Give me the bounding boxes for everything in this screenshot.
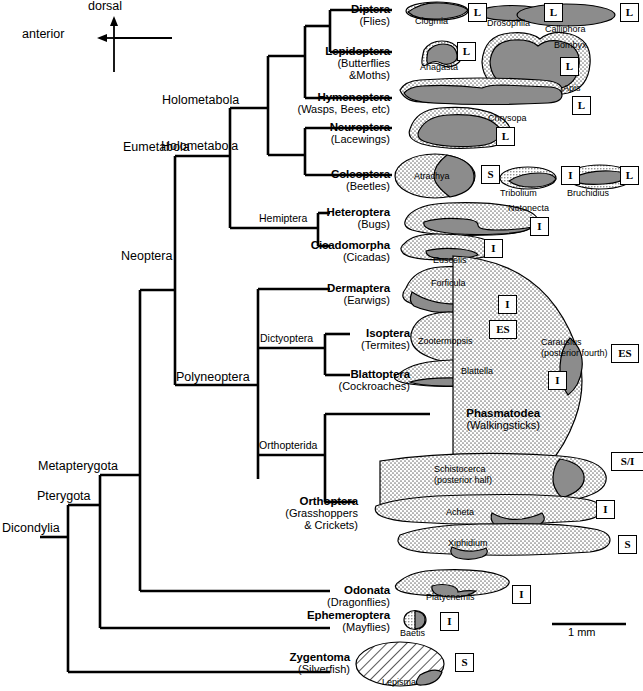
- code-box-xiphidium: S: [618, 535, 637, 554]
- genus-label-forficula: Forficula: [431, 279, 466, 288]
- genus-label-drosophila: Drosophila: [487, 19, 530, 28]
- genus-label-xiphidium: Xiphidium: [448, 539, 488, 548]
- clade-label-eumetabola: Eumetabola: [123, 141, 190, 154]
- order-common-heteroptera: (Bugs): [238, 219, 390, 231]
- genus-label-bombyx: Bombyx: [554, 41, 587, 50]
- code-box-acheta: I: [596, 500, 615, 519]
- order-common-zygentoma: (Silverfish): [228, 664, 350, 676]
- code-box-tribolium: I: [561, 166, 580, 185]
- clade-label-orthopterida: Orthopterida: [259, 440, 317, 451]
- genus-label-schistocerca-2: (posterior half): [434, 476, 492, 485]
- specimen-xiphidium: [398, 524, 610, 560]
- genus-label-carausius-2: (posterior fourth): [541, 349, 608, 358]
- order-common-lepidoptera: (Butterflies: [238, 58, 390, 70]
- genus-label-bruchidius: Bruchidius: [567, 189, 609, 198]
- genus-label-platycnemis: Platycnemis: [426, 593, 475, 602]
- order-label-orthoptera: Orthoptera: [228, 495, 358, 507]
- specimen-tribolium: [500, 167, 556, 189]
- anterior-label: anterior: [22, 28, 64, 41]
- order-label-ephemeroptera: Ephemeroptera: [198, 609, 390, 621]
- order-common-hymenoptera: (Wasps, Bees, etc): [228, 104, 390, 116]
- order-common-isoptera: (Termites): [250, 340, 410, 352]
- genus-label-apis: Apis: [563, 84, 581, 93]
- code-box-blattella: I: [548, 371, 567, 390]
- genus-label-blattella: Blattella: [461, 367, 493, 376]
- phylogeny-figure: dorsal anterior Holometabola Holometabol…: [0, 0, 643, 691]
- order-label-cicadomorpha: Cicadomorpha: [228, 239, 390, 251]
- genus-label-anagasta: Anagasta: [420, 63, 458, 72]
- clade-label-pterygota: Pterygota: [37, 490, 91, 503]
- order-common-orthoptera: (Grasshoppers: [218, 508, 358, 520]
- order-common-orthoptera-2: & Crickets): [218, 520, 358, 532]
- code-box-anagasta: L: [457, 42, 476, 61]
- specimen-calliphora: [517, 4, 615, 26]
- code-box-carausius: ES: [611, 344, 639, 363]
- genus-label-tribolium: Tribolium: [500, 189, 537, 198]
- order-common-coleoptera: (Beetles): [248, 181, 390, 193]
- code-box-bruchidius: L: [620, 166, 639, 185]
- order-label-phasmatodea: Phasmatodea: [380, 407, 540, 419]
- genus-label-chrysopa: Chrysopa: [488, 114, 527, 123]
- order-common-diptera: (Flies): [248, 16, 390, 28]
- code-box-clogmia: L: [468, 3, 487, 22]
- genus-label-notonecta: Notonecta: [508, 204, 549, 213]
- code-box-lepisma: S: [455, 653, 474, 672]
- clade-label-metapterygota: Metapterygota: [38, 460, 118, 473]
- order-common-dermaptera: (Earwigs): [238, 295, 390, 307]
- code-box-notonecta: I: [530, 217, 549, 236]
- order-label-lepidoptera: Lepidoptera: [238, 45, 390, 57]
- order-label-dermaptera: Dermaptera: [238, 282, 390, 294]
- code-box-zootermopsis: ES: [489, 320, 517, 339]
- order-label-heteroptera: Heteroptera: [238, 206, 390, 218]
- code-box-platycnemis: I: [512, 585, 531, 604]
- order-common-lepidoptera-2: &Moths): [238, 70, 390, 82]
- order-common-cicadomorpha: (Cicadas): [228, 252, 390, 264]
- orientation-axes: [97, 16, 172, 72]
- genus-label-zootermopsis: Zootermopsis: [418, 337, 473, 346]
- code-box-bombyx: L: [560, 57, 579, 76]
- genus-label-baetis: Baetis: [400, 629, 425, 638]
- genus-label-lepisma: Lepisma: [382, 678, 416, 687]
- order-label-coleoptera: Coleoptera: [248, 168, 390, 180]
- order-label-blattoptera: Blattoptera: [236, 368, 410, 380]
- order-label-diptera: Diptera: [248, 3, 390, 15]
- code-box-chrysopa: L: [496, 127, 515, 146]
- order-label-isoptera: Isoptera: [250, 327, 410, 339]
- code-box-euscelis: I: [484, 239, 503, 258]
- scale-bar-label: 1 mm: [568, 627, 596, 639]
- order-common-ephemeroptera: (Mayflies): [198, 622, 390, 634]
- order-common-neuroptera: (Lacewings): [248, 134, 390, 146]
- order-label-hymenoptera: Hymenoptera: [228, 91, 390, 103]
- genus-label-clogmia: Clogmia: [415, 17, 448, 26]
- order-common-blattoptera: (Cockroaches): [236, 381, 410, 393]
- order-label-neuroptera: Neuroptera: [248, 121, 390, 133]
- genus-label-carausius: Carausius: [541, 338, 582, 347]
- specimen-baetis: [404, 611, 426, 630]
- order-label-odonata: Odonata: [238, 584, 390, 596]
- genus-label-calliphora: Calliphora: [545, 25, 586, 34]
- clade-label-dicondylia: Dicondylia: [2, 522, 60, 535]
- dorsal-label: dorsal: [88, 0, 122, 13]
- code-box-apis: L: [572, 96, 591, 115]
- order-common-phasmatodea: (Walkingsticks): [380, 420, 540, 432]
- code-box-drosophila: L: [544, 3, 563, 22]
- code-box-forficula: I: [498, 295, 517, 314]
- genus-label-schistocerca: Schistocerca: [434, 465, 486, 474]
- specimen-apis: [400, 78, 562, 105]
- code-box-calliphora: L: [620, 3, 639, 22]
- order-label-zygentoma: Zygentoma: [228, 651, 350, 663]
- genus-label-euscelis: Euscelis: [433, 256, 467, 265]
- code-box-schistocerca: S/I: [611, 452, 643, 471]
- code-box-baetis: I: [440, 612, 459, 631]
- genus-label-acheta: Acheta: [446, 508, 474, 517]
- code-box-atrachya: S: [481, 165, 500, 184]
- clade-label-neoptera: Neoptera: [121, 250, 172, 263]
- genus-label-atrachya: Atrachya: [414, 172, 450, 181]
- order-common-odonata: (Dragonflies): [238, 597, 390, 609]
